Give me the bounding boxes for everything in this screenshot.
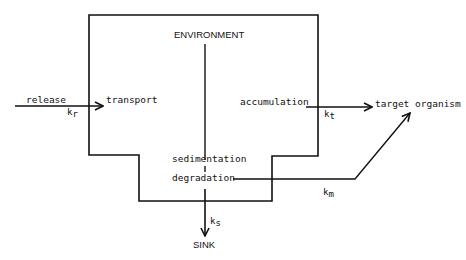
environment-label: ENVIRONMENT <box>174 30 244 40</box>
rate-ks: ks <box>210 217 221 226</box>
degradation-label: degradation <box>172 173 235 183</box>
sink-label: SINK <box>193 240 215 250</box>
transport-label: transport <box>106 95 157 105</box>
rate-km: km <box>323 188 334 197</box>
accumulation-label: accumulation <box>240 97 309 107</box>
degradation-arrow <box>233 113 410 179</box>
sedimentation-label: sedimentation <box>172 154 246 164</box>
release-label: release <box>26 95 66 105</box>
diagram-canvas: ENVIRONMENT release transport accumulati… <box>0 0 466 260</box>
rate-kr: kr <box>67 108 78 117</box>
target-organism-label: target organism <box>375 99 461 109</box>
rate-kt: kt <box>324 110 335 119</box>
